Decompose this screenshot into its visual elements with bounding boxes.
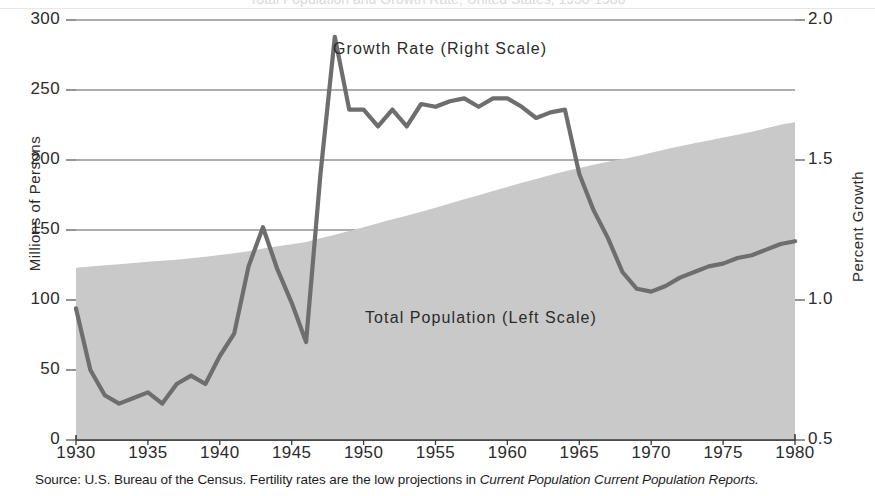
plot-canvas bbox=[0, 0, 875, 496]
chart-figure: Total Population and Growth Rate, United… bbox=[0, 0, 875, 496]
source-text: Source: U.S. Bureau of the Census. Ferti… bbox=[35, 472, 480, 487]
source-citation: Current Population Current Population Re… bbox=[480, 472, 759, 487]
source-note: Source: U.S. Bureau of the Census. Ferti… bbox=[35, 472, 875, 487]
total-population-annotation: Total Population (Left Scale) bbox=[365, 309, 597, 327]
population-area bbox=[76, 122, 795, 440]
growth-rate-annotation: Growth Rate (Right Scale) bbox=[333, 40, 547, 58]
